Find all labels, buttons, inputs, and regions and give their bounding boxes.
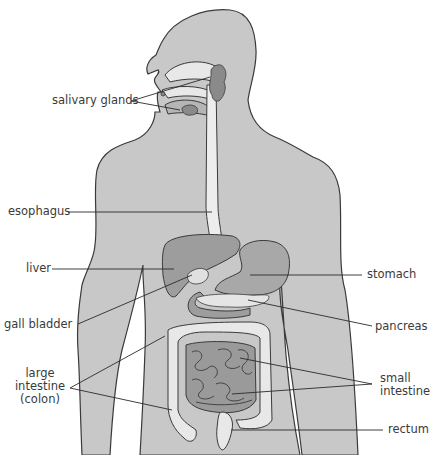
- label-salivary-glands: salivary glands: [52, 94, 139, 107]
- label-rectum: rectum: [388, 423, 429, 436]
- small-intestine: [186, 342, 256, 413]
- label-large-intestine-line3: (colon): [14, 393, 66, 406]
- label-small-intestine: small intestine: [380, 372, 430, 398]
- label-pancreas: pancreas: [375, 320, 428, 333]
- label-gall-bladder: gall bladder: [4, 318, 72, 331]
- label-esophagus: esophagus: [8, 205, 70, 218]
- label-liver: liver: [26, 262, 51, 275]
- label-large-intestine: large intestine (colon): [14, 367, 66, 406]
- label-small-intestine-line2: intestine: [380, 385, 430, 398]
- label-stomach: stomach: [367, 268, 416, 281]
- pancreas: [196, 294, 269, 307]
